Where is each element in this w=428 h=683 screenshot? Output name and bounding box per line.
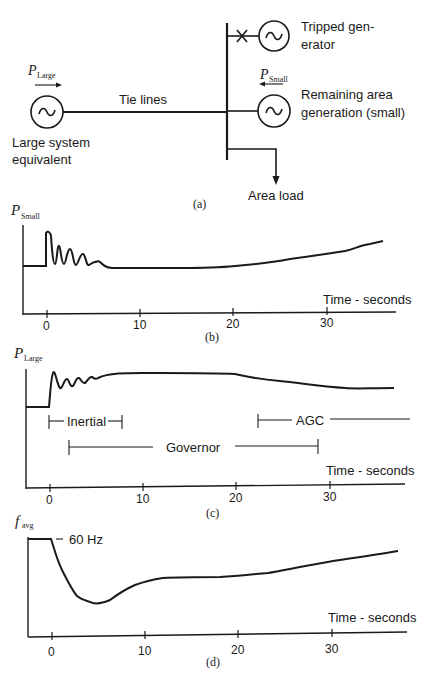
tick-0: 0 <box>46 493 53 507</box>
p-small-symbol: P <box>259 67 269 82</box>
ref-60hz-label: 60 Hz <box>69 532 103 547</box>
tick-20: 20 <box>226 317 240 331</box>
inertial-label: Inertial <box>67 414 106 429</box>
p-small-subscript: Small <box>269 75 288 84</box>
large-system-generator-icon <box>31 96 63 128</box>
tick-30: 30 <box>320 316 334 330</box>
ylabel-p-large-sub: Large <box>24 354 43 363</box>
area-load-label: Area load <box>248 188 304 203</box>
x-axis <box>26 484 405 488</box>
ylabel-f-avg: f <box>15 513 21 529</box>
large-system-label-1: Large system <box>12 135 90 150</box>
tripped-generator-icon <box>259 21 289 51</box>
panel-a-one-line-diagram: Tripped gen- erator P Small Remaining ar… <box>12 19 405 211</box>
p-large-arrow-icon <box>35 83 62 88</box>
caption-a: (a) <box>193 197 206 211</box>
agc-label: AGC <box>296 413 324 428</box>
caption-b: (b) <box>205 330 219 344</box>
tie-lines-label: Tie lines <box>119 92 167 107</box>
remaining-generation-label-1: Remaining area <box>301 87 394 102</box>
ylabel-p-small-sub: Small <box>21 212 40 221</box>
f-avg-curve <box>28 539 398 603</box>
xlabel-time: Time - seconds <box>328 610 417 625</box>
panel-d-frequency-chart: f avg 0 10 20 30 Time - seconds 60 Hz (d… <box>15 513 417 669</box>
load-arrow-icon <box>273 176 280 185</box>
remaining-generator-icon <box>258 95 290 127</box>
caption-c: (c) <box>206 506 219 520</box>
tick-0: 0 <box>48 645 55 659</box>
tick-10: 10 <box>138 644 152 658</box>
xlabel-time: Time - seconds <box>323 292 412 307</box>
agc-bracket <box>258 414 410 428</box>
tripped-generator-label-2: erator <box>301 37 336 52</box>
x-axis <box>28 632 407 637</box>
caption-d: (d) <box>206 655 220 669</box>
tick-30: 30 <box>323 490 337 504</box>
governor-label: Governor <box>166 440 221 455</box>
tick-20: 20 <box>231 643 245 657</box>
ylabel-f-avg-sub: avg <box>22 521 34 530</box>
p-large-subscript: Large <box>37 71 56 80</box>
p-large-curve <box>26 372 394 407</box>
ylabel-p-small: P <box>10 202 20 218</box>
x-axis <box>23 312 396 314</box>
tripped-generator-label-1: Tripped gen- <box>301 19 374 34</box>
panel-c-p-large-chart: P Large 0 10 20 30 Time - seconds Inerti… <box>13 345 415 520</box>
tick-20: 20 <box>229 491 243 505</box>
tick-30: 30 <box>325 642 339 656</box>
xlabel-time: Time - seconds <box>326 463 415 478</box>
p-small-curve <box>23 232 383 268</box>
ylabel-p-large: P <box>13 345 23 361</box>
area-load-branch <box>227 149 276 178</box>
tick-0: 0 <box>43 319 50 333</box>
tick-10: 10 <box>133 318 147 332</box>
figure-canvas: Tripped gen- erator P Small Remaining ar… <box>0 0 428 683</box>
p-large-symbol: P <box>27 63 37 78</box>
remaining-generation-label-2: generation (small) <box>301 105 405 120</box>
panel-b-p-small-chart: P Small 0 10 20 30 Time - seconds (b) <box>10 202 412 344</box>
tick-10: 10 <box>136 492 150 506</box>
large-system-label-2: equivalent <box>12 152 72 167</box>
